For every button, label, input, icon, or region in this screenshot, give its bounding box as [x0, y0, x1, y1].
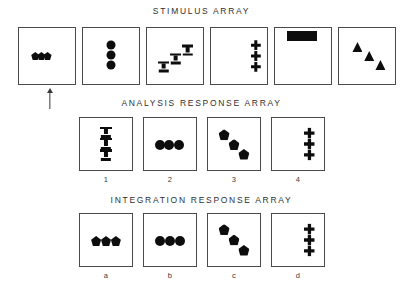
- analysis-panel-1-label: 1: [79, 175, 133, 184]
- integration-panel-d[interactable]: [271, 213, 325, 267]
- integration-panel-c[interactable]: [207, 213, 261, 267]
- shape-pent: [111, 236, 121, 246]
- shape-plus: [251, 62, 261, 72]
- shape-square: [307, 31, 317, 41]
- shape-pent: [229, 235, 240, 246]
- shape-tri: [375, 60, 385, 70]
- shape-circle: [165, 236, 175, 246]
- analysis-panel-4[interactable]: [271, 117, 325, 171]
- stimulus-panel-4[interactable]: [210, 27, 268, 85]
- stimulus-panel-5[interactable]: [274, 27, 332, 85]
- shape-plus: [304, 245, 315, 256]
- shape-plus: [304, 149, 315, 160]
- shape-tee-part: [162, 63, 166, 68]
- shape-tee: [158, 61, 169, 72]
- figure-panel-array: STIMULUS ARRAYANALYSIS RESPONSE ARRAY123…: [0, 0, 403, 285]
- shape-tee-part: [104, 140, 108, 146]
- panel-contents: [275, 28, 331, 84]
- shape-tri: [364, 51, 374, 61]
- panel-contents: [80, 214, 132, 266]
- up-arrow-indicator: [46, 88, 53, 105]
- shape-plus: [251, 51, 261, 61]
- shape-square: [287, 31, 297, 41]
- shape-tee: [182, 45, 193, 56]
- panel-contents: [208, 118, 260, 170]
- panel-contents: [144, 118, 196, 170]
- panel-contents: [147, 28, 203, 84]
- panel-contents: [80, 118, 132, 170]
- shape-circle: [175, 236, 185, 246]
- shape-tee: [100, 149, 112, 161]
- shape-circle: [174, 140, 184, 150]
- row-title-stimulus: STIMULUS ARRAY: [0, 6, 403, 16]
- shape-tee-part: [174, 55, 178, 60]
- shape-tee-part: [104, 129, 108, 135]
- shape-circle: [107, 50, 116, 59]
- panel-contents: [272, 118, 324, 170]
- shape-tee-part: [171, 61, 180, 64]
- stimulus-panel-1[interactable]: [18, 27, 76, 85]
- shape-circle: [107, 60, 116, 69]
- shape-tee-part: [104, 152, 108, 158]
- shape-plus: [304, 224, 315, 235]
- shape-plus: [304, 139, 315, 150]
- shape-tee-part: [183, 53, 192, 56]
- panel-contents: [339, 28, 395, 84]
- integration-panel-b[interactable]: [143, 213, 197, 267]
- shape-tee-part: [159, 69, 168, 72]
- shape-tri: [352, 42, 362, 52]
- integration-panel-a-label: a: [79, 271, 133, 280]
- shape-plus: [304, 128, 315, 139]
- shape-pent: [219, 224, 230, 235]
- analysis-panel-1[interactable]: [79, 117, 133, 171]
- analysis-panel-4-label: 4: [271, 175, 325, 184]
- integration-panel-b-label: b: [143, 271, 197, 280]
- shape-pent: [219, 129, 230, 140]
- shape-circle: [155, 236, 165, 246]
- row-title-integration: INTEGRATION RESPONSE ARRAY: [0, 195, 403, 205]
- integration-panel-c-label: c: [207, 271, 261, 280]
- shape-tee-part: [186, 47, 190, 52]
- panel-contents: [144, 214, 196, 266]
- analysis-panel-3[interactable]: [207, 117, 261, 171]
- shape-circle: [164, 140, 174, 150]
- panel-contents: [83, 28, 139, 84]
- stimulus-panel-3[interactable]: [146, 27, 204, 85]
- panel-contents: [19, 28, 75, 84]
- shape-circle: [107, 40, 116, 49]
- shape-pent: [91, 236, 101, 246]
- shape-pent: [44, 52, 52, 60]
- analysis-panel-2[interactable]: [143, 117, 197, 171]
- integration-panel-d-label: d: [271, 271, 325, 280]
- shape-pent: [101, 236, 111, 246]
- arrow-shaft: [49, 92, 50, 109]
- shape-tee: [100, 127, 112, 139]
- shape-square: [297, 31, 307, 41]
- stimulus-panel-2[interactable]: [82, 27, 140, 85]
- analysis-panel-3-label: 3: [207, 175, 261, 184]
- shape-plus: [251, 40, 261, 50]
- shape-plus: [304, 235, 315, 246]
- shape-circle: [155, 140, 165, 150]
- panel-contents: [208, 214, 260, 266]
- shape-pent: [238, 245, 249, 256]
- stimulus-panel-6[interactable]: [338, 27, 396, 85]
- shape-pent: [238, 149, 249, 160]
- integration-panel-a[interactable]: [79, 213, 133, 267]
- analysis-panel-2-label: 2: [143, 175, 197, 184]
- shape-pent: [229, 139, 240, 150]
- panel-contents: [211, 28, 267, 84]
- panel-contents: [272, 214, 324, 266]
- shape-tee: [170, 53, 181, 64]
- shape-tee: [100, 138, 112, 150]
- shape-tee-part: [101, 158, 111, 161]
- row-title-analysis: ANALYSIS RESPONSE ARRAY: [0, 98, 403, 108]
